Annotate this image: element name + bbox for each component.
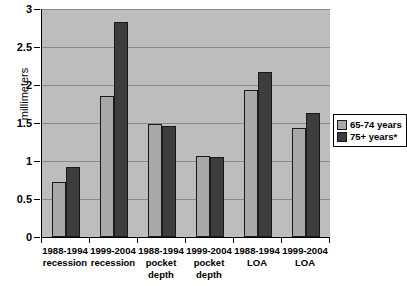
x-tick-mark (185, 238, 186, 243)
bar-group (138, 9, 186, 237)
x-tick-label: 1988-1994LOA (233, 245, 281, 269)
legend-item-label: 65-74 years (350, 119, 402, 130)
y-tick-label: 1 (26, 155, 32, 167)
x-tick-mark (137, 238, 138, 243)
bar (306, 113, 320, 237)
bar-group (282, 9, 330, 237)
x-tick-label-line: recession (41, 257, 89, 269)
x-tick-label: 1999-2004LOA (281, 245, 329, 269)
x-tick-label-line: 1988-1994 (233, 245, 281, 257)
bar (66, 167, 80, 237)
x-tick-label-line: 1999-2004 (89, 245, 137, 257)
y-tick-mark (34, 199, 40, 200)
legend-swatch-icon (337, 120, 347, 130)
x-tick-label-line: recession (89, 257, 137, 269)
bar (244, 90, 258, 237)
y-tick-mark (34, 9, 40, 10)
y-tick-mark (34, 47, 40, 48)
y-tick-mark (34, 161, 40, 162)
x-tick-mark (281, 238, 282, 243)
bar (52, 182, 66, 237)
y-tick-mark (34, 237, 40, 238)
x-tick-mark (233, 238, 234, 243)
legend: 65-74 years 75+ years* (333, 114, 407, 147)
bar (148, 124, 162, 237)
x-tick-label-line: LOA (233, 257, 281, 269)
x-tick-label-line: 1999-2004 (281, 245, 329, 257)
y-tick-label: 2.5 (17, 41, 32, 53)
bar-group (186, 9, 234, 237)
x-tick-label-line: LOA (281, 257, 329, 269)
bars-layer (42, 9, 330, 237)
x-tick-mark (41, 238, 42, 243)
legend-item: 75+ years* (337, 131, 402, 142)
y-axis-ticks: 00.511.522.53 (0, 0, 40, 286)
bar-group (234, 9, 282, 237)
x-tick-label-line: 1999-2004 (185, 245, 233, 257)
x-tick-label-line: depth (137, 269, 185, 281)
y-tick-mark (34, 123, 40, 124)
y-tick-label: 3 (26, 3, 32, 15)
legend-item: 65-74 years (337, 119, 402, 130)
x-tick-mark (329, 238, 330, 243)
bar-group (42, 9, 90, 237)
bar (114, 22, 128, 237)
x-tick-mark (89, 238, 90, 243)
x-tick-label-line: 1988-1994 (41, 245, 89, 257)
y-tick-mark (34, 85, 40, 86)
y-tick-label: 0.5 (17, 193, 32, 205)
plot-area (41, 9, 330, 238)
bar (100, 96, 114, 237)
y-tick-label: 1.5 (17, 117, 32, 129)
x-tick-label-line: depth (185, 269, 233, 281)
x-tick-label: 1999-2004recession (89, 245, 137, 269)
bar (196, 156, 210, 237)
y-tick-label: 0 (26, 231, 32, 243)
x-axis: 1988-1994recession1999-2004recession1988… (41, 238, 330, 286)
bar-group (90, 9, 138, 237)
bar (258, 72, 272, 237)
x-tick-label-line: pocket (185, 257, 233, 269)
y-tick-label: 2 (26, 79, 32, 91)
legend-swatch-icon (337, 132, 347, 142)
x-tick-label: 1988-1994recession (41, 245, 89, 269)
x-tick-label-line: 1988-1994 (137, 245, 185, 257)
bar (292, 128, 306, 237)
legend-item-label: 75+ years* (350, 131, 397, 142)
x-tick-label-line: pocket (137, 257, 185, 269)
bar (210, 157, 224, 237)
x-tick-label: 1999-2004pocketdepth (185, 245, 233, 281)
x-tick-label: 1988-1994pocketdepth (137, 245, 185, 281)
bar (162, 126, 176, 237)
